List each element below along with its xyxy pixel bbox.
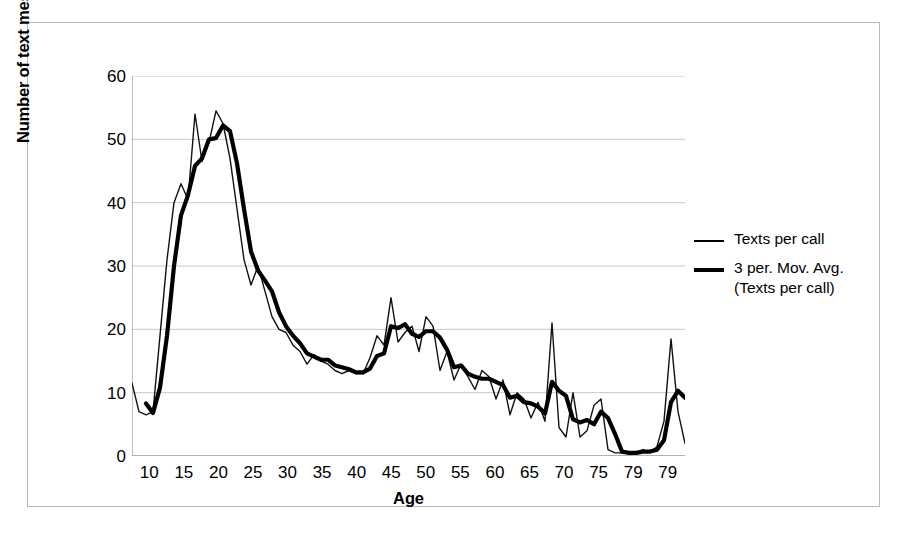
chart-figure: Number of text messages per call 6050403… — [0, 0, 898, 536]
x-tick-label: 50 — [416, 464, 435, 481]
x-tick-label: 65 — [520, 464, 539, 481]
series-line-moving-average — [146, 125, 685, 452]
x-tick-label: 70 — [555, 464, 574, 481]
x-tick-label: 55 — [451, 464, 470, 481]
chart-legend: Texts per call3 per. Mov. Avg. (Texts pe… — [692, 229, 898, 307]
series-line-texts-per-call — [132, 111, 685, 453]
x-tick-label: 35 — [313, 464, 332, 481]
y-tick-label: 20 — [107, 321, 126, 338]
gridlines — [132, 76, 685, 456]
chart-frame: Number of text messages per call 6050403… — [27, 22, 880, 507]
x-tick-label: 79 — [624, 464, 643, 481]
x-tick-label: 15 — [174, 464, 193, 481]
y-tick-label: 40 — [107, 195, 126, 212]
x-tick-label: 79 — [658, 464, 677, 481]
x-tick-label: 30 — [278, 464, 297, 481]
y-tick-label: 10 — [107, 385, 126, 402]
y-tick-labels: 6050403020100 — [88, 63, 126, 469]
legend-line-swatch-icon — [692, 233, 726, 249]
y-tick-label: 50 — [107, 131, 126, 148]
y-axis-title: Number of text messages per call — [14, 0, 33, 143]
series-layer — [132, 111, 685, 453]
x-tick-label: 25 — [244, 464, 263, 481]
y-tick-label: 0 — [117, 448, 126, 465]
x-axis-title: Age — [132, 489, 685, 508]
plot-area — [132, 76, 685, 456]
x-tick-label: 40 — [347, 464, 366, 481]
plot-canvas — [132, 76, 685, 456]
y-tick-label: 60 — [107, 68, 126, 85]
legend-item-label: Texts per call — [734, 229, 898, 249]
legend-item-label: 3 per. Mov. Avg. (Texts per call) — [734, 258, 898, 298]
x-tick-label: 20 — [209, 464, 228, 481]
x-tick-label: 75 — [589, 464, 608, 481]
y-tick-label: 30 — [107, 258, 126, 275]
legend-line-swatch-icon — [692, 262, 726, 278]
legend-item[interactable]: 3 per. Mov. Avg. (Texts per call) — [692, 258, 898, 298]
x-tick-label: 45 — [382, 464, 401, 481]
x-tick-label: 10 — [140, 464, 159, 481]
x-tick-label: 60 — [485, 464, 504, 481]
x-tick-labels: 10152025303540455055606570757979 — [132, 464, 692, 488]
legend-item[interactable]: Texts per call — [692, 229, 898, 249]
